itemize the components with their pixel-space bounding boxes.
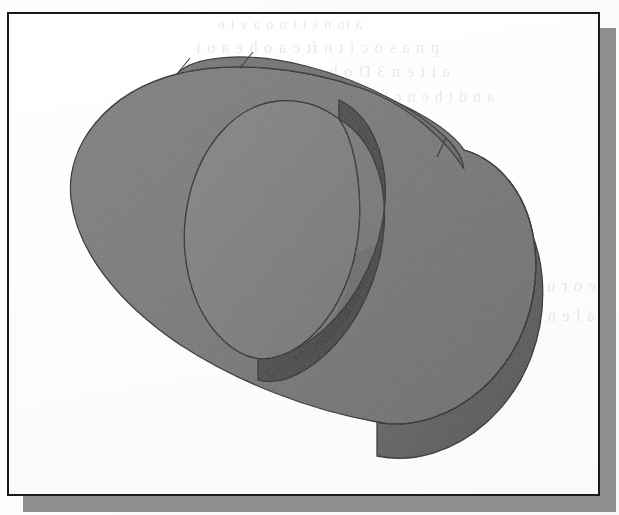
shaded-3d-solid (9, 14, 598, 494)
figure-page: a in n s t t n o a v i e p n a s o c i t… (0, 0, 619, 515)
figure-frame: a in n s t t n o a v i e p n a s o c i t… (7, 12, 600, 496)
